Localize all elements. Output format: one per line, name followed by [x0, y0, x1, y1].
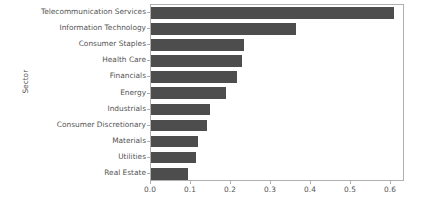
- y-axis-tick-label: Energy: [0, 89, 146, 96]
- x-axis-tick-label: 0.1: [184, 186, 196, 193]
- bar: [151, 7, 394, 19]
- bar-row: [151, 118, 403, 134]
- y-axis-tick-label: Real Estate: [0, 169, 146, 176]
- x-axis-tick-mark: [390, 181, 391, 184]
- bar-row: [151, 134, 403, 150]
- y-axis-tick-label: Materials: [0, 137, 146, 144]
- x-axis-tick-mark: [190, 181, 191, 184]
- y-axis-tick-label: Consumer Discretionary: [0, 121, 146, 128]
- bar-row: [151, 150, 403, 166]
- x-axis-tick-mark: [230, 181, 231, 184]
- plot-area: [150, 4, 404, 181]
- y-axis-tick-label: Financials: [0, 72, 146, 79]
- bar-row: [151, 85, 403, 101]
- y-axis-tick-label: Information Technology: [0, 24, 146, 31]
- x-axis-tick-label: 0.6: [384, 186, 396, 193]
- x-axis-tick-mark: [310, 181, 311, 184]
- bar: [151, 120, 207, 132]
- bar-row: [151, 37, 403, 53]
- bar-row: [151, 69, 403, 85]
- y-axis-tick-label: Utilities: [0, 153, 146, 160]
- x-axis-tick-label: 0.4: [304, 186, 316, 193]
- bar-row: [151, 53, 403, 69]
- bar-row: [151, 5, 403, 21]
- bar: [151, 23, 296, 35]
- x-axis-tick-mark: [150, 181, 151, 184]
- bar: [151, 39, 244, 51]
- bar: [151, 87, 226, 99]
- x-axis-tick-mark: [270, 181, 271, 184]
- y-axis-tick-label: Consumer Staples: [0, 40, 146, 47]
- bar: [151, 136, 198, 148]
- bar-row: [151, 21, 403, 37]
- bar: [151, 168, 188, 180]
- x-axis-tick-mark: [350, 181, 351, 184]
- y-axis-tick-label: Telecommunication Services: [0, 8, 146, 15]
- bar: [151, 55, 242, 67]
- bar-chart-figure: Sector Telecommunication ServicesInforma…: [0, 0, 424, 206]
- x-axis-tick-label: 0.3: [264, 186, 276, 193]
- y-axis-tick-label: Health Care: [0, 56, 146, 63]
- x-axis-tick-label: 0.5: [344, 186, 356, 193]
- bar-row: [151, 166, 403, 182]
- bar: [151, 71, 237, 83]
- bar-row: [151, 102, 403, 118]
- y-axis-tick-label: Industrials: [0, 105, 146, 112]
- x-axis-tick-label: 0.2: [224, 186, 236, 193]
- x-axis-tick-label: 0.0: [144, 186, 156, 193]
- bar: [151, 152, 196, 164]
- bar: [151, 104, 210, 116]
